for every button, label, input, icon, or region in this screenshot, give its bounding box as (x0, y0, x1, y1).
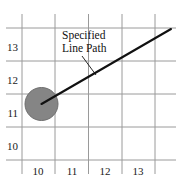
line-path-figure: Specified Line Path 13 12 11 10 10 11 12… (0, 0, 176, 188)
annotation-label-line-1: Specified (62, 29, 106, 42)
annotation-label-line-2: Line Path (62, 42, 106, 55)
annotation-label: Specified Line Path (62, 29, 106, 55)
y-axis-tick-label-11: 11 (2, 108, 18, 119)
x-axis-tick-label-12: 12 (95, 166, 115, 177)
x-axis-tick-label-13: 13 (128, 166, 148, 177)
y-axis-tick-label-10: 10 (2, 141, 18, 152)
y-axis-tick-label-13: 13 (2, 42, 18, 53)
x-axis-tick-label-10: 10 (28, 166, 48, 177)
x-axis-tick-label-11: 11 (62, 166, 82, 177)
y-axis-tick-label-12: 12 (2, 75, 18, 86)
